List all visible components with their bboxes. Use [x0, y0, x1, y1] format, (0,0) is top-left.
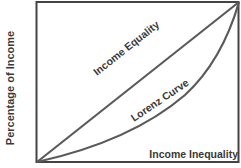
x-axis-label: Income Inequality — [149, 148, 238, 160]
y-axis-label: Percentage of Income — [4, 31, 16, 145]
income-equality-line — [37, 2, 239, 162]
income-equality-annotation: Income Equality — [91, 18, 162, 78]
lorenz-chart: Income Equality Lorenz Curve — [0, 0, 241, 168]
